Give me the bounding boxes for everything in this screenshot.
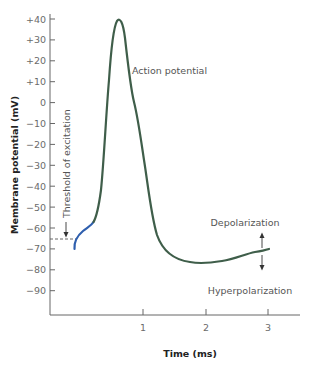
threshold-label: Threshold of excitation <box>61 109 72 219</box>
y-tick-label: −70 <box>26 243 46 254</box>
y-tick-label: +10 <box>26 76 46 87</box>
y-tick-label: −50 <box>26 202 46 213</box>
y-tick-label: −40 <box>26 181 46 192</box>
y-tick-label: −80 <box>26 264 46 275</box>
y-tick-label: −10 <box>26 118 46 129</box>
y-tick-label: 0 <box>40 97 46 108</box>
y-tick-label: +30 <box>26 34 46 45</box>
stimulus-curve <box>74 222 93 249</box>
x-tick-label: 2 <box>203 322 209 333</box>
up-arrow-icon <box>260 233 265 239</box>
x-tick-label: 3 <box>265 322 271 333</box>
action-potential-label: Action potential <box>132 65 207 76</box>
x-ticks <box>143 309 268 315</box>
depolarization-label: Depolarization <box>210 217 279 228</box>
action-potential-chart: +40 +30 +20 +10 0 −10 −20 −30 −40 −50 −6… <box>0 0 315 369</box>
x-tick-label: 1 <box>140 322 146 333</box>
y-tick-label: +40 <box>26 14 46 25</box>
y-tick-label: −20 <box>26 139 46 150</box>
y-tick-label: −90 <box>26 285 46 296</box>
x-tick-labels: 1 2 3 <box>140 322 271 333</box>
y-tick-label: −30 <box>26 160 46 171</box>
x-axis-title: Time (ms) <box>163 348 217 359</box>
hyperpolarization-label: Hyperpolarization <box>208 285 292 296</box>
y-ticks <box>50 19 55 291</box>
threshold-arrow-head-icon <box>64 232 69 238</box>
y-axis-title: Membrane potential (mV) <box>9 96 20 234</box>
y-tick-labels: +40 +30 +20 +10 0 −10 −20 −30 −40 −50 −6… <box>26 14 46 297</box>
down-arrow-icon <box>260 265 265 271</box>
y-tick-label: −60 <box>26 223 46 234</box>
y-tick-label: +20 <box>26 55 46 66</box>
